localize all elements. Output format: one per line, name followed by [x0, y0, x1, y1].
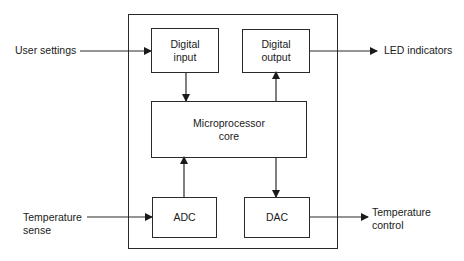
dac-block: DAC	[244, 197, 310, 238]
temperature-sense-label: Temperature sense	[23, 211, 82, 237]
core-label: Microprocessor core	[193, 117, 265, 143]
digital-input-block: Digital input	[151, 28, 219, 73]
digital-output-block: Digital output	[242, 29, 310, 73]
led-indicators-label: LED indicators	[384, 44, 452, 57]
dac-label: DAC	[266, 211, 288, 224]
adc-label: ADC	[173, 211, 195, 224]
digital-input-label: Digital input	[170, 38, 199, 64]
microprocessor-core-block: Microprocessor core	[151, 101, 307, 158]
adc-block: ADC	[152, 197, 217, 238]
digital-output-label: Digital output	[261, 38, 290, 64]
user-settings-label: User settings	[15, 44, 76, 57]
temperature-control-label: Temperature control	[372, 206, 431, 232]
